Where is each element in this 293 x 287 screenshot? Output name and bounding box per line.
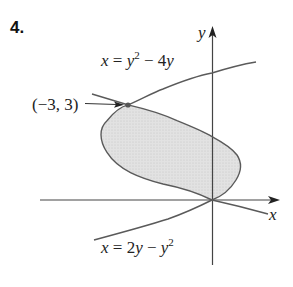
intersection-label: (−3, 3): [32, 95, 78, 114]
eq-lower-y2: y: [159, 238, 169, 257]
x-axis-label: x: [268, 205, 277, 224]
problem-number: 4.: [10, 18, 24, 37]
eq-upper-y: y: [125, 51, 135, 70]
eq-lower-minus: −: [143, 238, 161, 257]
intersection-point: [125, 102, 130, 107]
eq-lower-eq: = 2: [109, 238, 136, 257]
y-axis-label: y: [196, 23, 206, 42]
eq-upper-eq: =: [109, 51, 127, 70]
eq-lower-exp: 2: [168, 236, 174, 248]
region-diagram: 4. x y (−3, 3) x = y2 − 4y x = 2y − y2: [0, 0, 293, 287]
eq-upper-rest: − 4: [140, 51, 167, 70]
equation-label-upper: x = y2 − 4y: [100, 49, 174, 70]
pointer-arrow: [85, 104, 117, 105]
equation-label-lower: x = 2y − y2: [100, 236, 174, 257]
eq-lower-y: y: [133, 238, 143, 257]
eq-upper-y2: y: [164, 51, 174, 70]
